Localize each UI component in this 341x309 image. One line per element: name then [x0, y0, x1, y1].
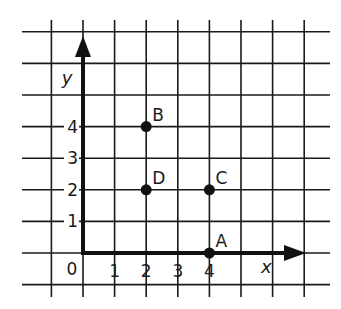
point-b: B [141, 105, 164, 133]
point-dot-icon [204, 184, 215, 195]
y-tick-label: 2 [67, 180, 78, 200]
point-dot-icon [141, 121, 152, 132]
point-label: D [152, 168, 165, 188]
point-dot-icon [204, 248, 215, 259]
origin-label: 0 [67, 259, 78, 279]
x-tick-label: 3 [172, 261, 183, 281]
point-label: A [215, 231, 227, 251]
y-axis-arrow-icon [75, 36, 91, 57]
y-tick-label: 4 [67, 117, 78, 137]
x-axis-label: x [260, 256, 272, 277]
point-c: C [204, 168, 227, 196]
coordinate-grid: 123412340yx ABCD [0, 0, 341, 309]
x-tick-label: 4 [204, 261, 215, 281]
x-tick-label: 2 [141, 261, 152, 281]
plotted-points: ABCD [141, 105, 228, 259]
x-tick-label: 1 [109, 261, 120, 281]
y-tick-label: 3 [67, 148, 78, 168]
point-label: B [152, 105, 164, 125]
point-d: D [141, 168, 166, 196]
axes [75, 36, 306, 261]
point-label: C [215, 168, 227, 188]
point-dot-icon [141, 184, 152, 195]
x-axis-arrow-icon [284, 245, 306, 261]
y-tick-label: 1 [67, 211, 78, 231]
y-axis-label: y [61, 67, 73, 88]
